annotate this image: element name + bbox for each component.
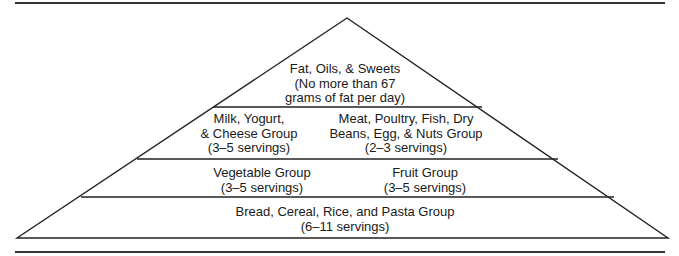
vegetable-servings: (3–5 servings) (213, 181, 311, 196)
milk-title: Milk, Yogurt, (201, 112, 298, 127)
fruit-servings: (3–5 servings) (384, 181, 466, 196)
fruit-title: Fruit Group (384, 166, 466, 181)
meat-servings: (2–3 servings) (329, 141, 482, 156)
tier-meat-beans-nuts: Meat, Poultry, Fish, Dry Beans, Egg, & N… (329, 112, 482, 156)
tier-vegetable: Vegetable Group (3–5 servings) (213, 166, 311, 195)
tier-bread-cereal-rice-pasta: Bread, Cereal, Rice, and Pasta Group (6–… (236, 205, 455, 234)
fats-limit: (No more than 67 (285, 77, 405, 92)
meat-title-cont: Beans, Egg, & Nuts Group (329, 127, 482, 142)
vegetable-title: Vegetable Group (213, 166, 311, 181)
tier-fats-oils-sweets: Fat, Oils, & Sweets (No more than 67 gra… (285, 62, 405, 106)
bread-servings: (6–11 servings) (236, 220, 455, 235)
tier-milk-yogurt-cheese: Milk, Yogurt, & Cheese Group (3–5 servin… (201, 112, 298, 156)
fats-title: Fat, Oils, & Sweets (285, 62, 405, 77)
tier-fruit: Fruit Group (3–5 servings) (384, 166, 466, 195)
milk-servings: (3–5 servings) (201, 141, 298, 156)
milk-title-cont: & Cheese Group (201, 127, 298, 142)
fats-limit-cont: grams of fat per day) (285, 91, 405, 106)
bread-title: Bread, Cereal, Rice, and Pasta Group (236, 205, 455, 220)
meat-title: Meat, Poultry, Fish, Dry (329, 112, 482, 127)
